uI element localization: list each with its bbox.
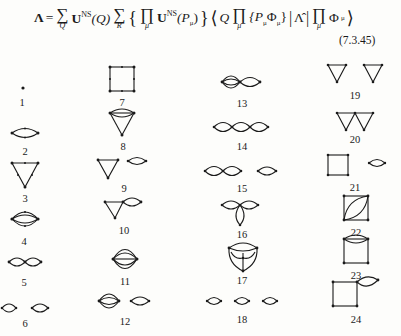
brace-close: }	[280, 9, 286, 24]
diagram-17	[226, 240, 260, 274]
diagram-label-18: 18	[237, 314, 248, 325]
diagram-label-6: 6	[22, 318, 27, 329]
q-symbol: Q	[220, 10, 230, 26]
bar: |	[289, 9, 292, 27]
equation-number: (7.3.45)	[339, 34, 375, 46]
lambda-symbol: Λ	[34, 10, 44, 26]
diagram-13	[220, 72, 264, 92]
product-index: μ	[237, 22, 241, 29]
ns-superscript: NS	[81, 10, 91, 19]
product-index: μ	[145, 22, 149, 29]
q-argument: (Q)	[91, 10, 110, 25]
mu-subscript: μ	[341, 14, 345, 22]
diagram-label-7: 7	[119, 97, 124, 108]
product-over-mu: ∏μ	[312, 7, 326, 29]
diagram-label-16: 16	[237, 229, 248, 240]
diagram-label-1: 1	[19, 97, 24, 108]
sum-index: Q	[59, 22, 65, 29]
lambda-hat-operator: Λ̂	[294, 10, 304, 26]
u-symbol: U	[157, 9, 167, 24]
p-argument: (P	[177, 9, 190, 24]
diagram-label-20: 20	[350, 134, 361, 145]
diagram-label-22: 22	[351, 227, 362, 238]
u-ns-p: UNS(Pμ)	[157, 9, 198, 27]
product-index: μ	[317, 22, 321, 29]
product-over-mu: ∏μ	[232, 7, 246, 29]
diagram-label-9: 9	[121, 183, 126, 194]
diagram-label-23: 23	[351, 270, 362, 281]
product-operator: ∏	[232, 7, 246, 22]
sum-index: R	[117, 22, 122, 29]
product-operator: ∏	[140, 7, 154, 22]
diagram-21	[325, 152, 395, 178]
diagram-1	[20, 85, 26, 91]
diagram-15	[203, 162, 279, 180]
diagram-14	[212, 118, 272, 136]
paren-close: )	[193, 9, 198, 24]
diagram-10	[103, 197, 145, 223]
diagram-4	[10, 208, 40, 230]
diagram-19	[325, 62, 389, 86]
phi-symbol: Φ	[329, 10, 339, 26]
ns-superscript: NS	[167, 9, 177, 18]
diagram-label-4: 4	[21, 236, 26, 247]
product-operator: ∏	[312, 7, 326, 22]
diagram-label-14: 14	[237, 141, 248, 152]
diagram-9	[95, 157, 155, 183]
equation-7-3-45: Λ = ∑Q UNS(Q) ∑R { ∏μ UNS(Pμ) } ⟨ Q ∏μ {…	[34, 4, 374, 32]
bra-content: {PμΦμ}	[249, 9, 287, 27]
diagram-label-24: 24	[351, 314, 362, 325]
diagram-12	[97, 290, 153, 312]
diagram-3	[9, 160, 41, 190]
diagram-8	[107, 107, 137, 139]
equals-sign: =	[46, 10, 54, 26]
diagram-20	[334, 110, 378, 134]
u-symbol: U	[71, 10, 81, 25]
diagram-label-17: 17	[237, 275, 248, 286]
diagram-label-19: 19	[350, 90, 361, 101]
diagram-label-5: 5	[21, 277, 26, 288]
diagram-label-10: 10	[119, 225, 130, 236]
sum-operator: ∑	[113, 7, 125, 22]
bra-open: ⟨	[211, 7, 218, 29]
diagram-label-13: 13	[237, 98, 248, 109]
brace-open: {	[128, 8, 137, 29]
sum-over-q: ∑Q	[56, 7, 68, 29]
diagram-label-15: 15	[237, 183, 248, 194]
phi-symbol: Φ	[267, 9, 277, 24]
diagram-label-8: 8	[120, 141, 125, 152]
brace-close: }	[200, 8, 209, 29]
diagram-7	[107, 64, 137, 94]
sum-operator: ∑	[56, 7, 68, 22]
diagram-label-12: 12	[120, 316, 131, 327]
diagram-2	[10, 125, 40, 141]
bar: |	[306, 9, 309, 27]
diagram-18	[205, 293, 281, 309]
diagram-6	[0, 300, 52, 316]
p-symbol: {P	[249, 9, 263, 24]
diagram-label-11: 11	[120, 276, 130, 287]
ket-close: ⟩	[347, 7, 354, 29]
diagram-24	[330, 275, 396, 311]
product-over-mu: ∏μ	[140, 7, 154, 29]
diagram-22	[341, 193, 371, 223]
diagram-11	[110, 245, 140, 273]
diagram-label-21: 21	[350, 182, 361, 193]
diagram-label-3: 3	[22, 193, 27, 204]
diagram-5	[7, 254, 43, 270]
sum-over-r: ∑R	[113, 7, 125, 29]
diagram-label-2: 2	[22, 146, 27, 157]
u-ns-q: UNS(Q)	[71, 10, 110, 27]
diagram-16	[220, 199, 264, 229]
